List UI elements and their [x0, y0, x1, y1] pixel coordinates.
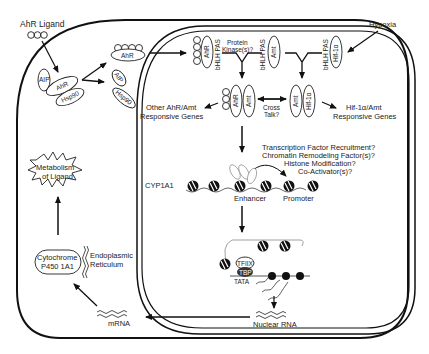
ahr-ligand-label: AhR Ligand [20, 19, 65, 29]
amt-hif-dimer: Amt Hif-1α [290, 85, 315, 117]
nuclear-ahr: AhR bHLH PAS [194, 36, 222, 70]
tfiix-label: TFIIX [237, 260, 254, 267]
other-genes-label: Other AhR/Amt [146, 103, 197, 112]
diagram-canvas: AhR Ligand AIP AhR Hsp90 AhR AIP Hsp90 M… [0, 0, 429, 354]
hif-label: Hif-1α [305, 92, 312, 110]
amt-label: Amt [292, 95, 299, 107]
bhlh-pas-label: bHLH PAS [259, 38, 266, 70]
hif1a-monomer: Hif-1α bHLH PAS [322, 36, 342, 70]
hif-responsive-label: Responsive Genes [333, 112, 397, 121]
cyp1a1-gene-label: CYP1A1 [145, 181, 174, 190]
ligand-bound-ahr: AhR [111, 45, 145, 62]
nuclear-envelope-outer [137, 26, 415, 334]
promoter-label: Promoter [283, 194, 314, 203]
amt-monomer: Amt bHLH PAS [259, 36, 280, 70]
ahr-label: AhR [121, 52, 134, 59]
er-membrane [83, 246, 89, 278]
tata-label: TATA [234, 278, 250, 285]
reticulum-label: Reticulum [90, 260, 123, 269]
cytochrome-label: Cytochrome [37, 253, 77, 262]
amt-label: Amt [245, 95, 252, 107]
of-ligand-label: of Ligand [42, 172, 73, 181]
mrna-label: mRNA [108, 319, 130, 328]
hif-genes-label: Hif-1α/Amt [346, 103, 383, 112]
metabolism-label: Metabolism [36, 163, 74, 172]
tbp-label: TBP [239, 269, 252, 276]
ahr-label: AhR [232, 94, 239, 107]
ligand-rings-icon [28, 32, 48, 39]
rna-polymerases [268, 272, 304, 280]
er-label: Endoplasmic [90, 251, 133, 260]
talk-label: Talk? [264, 111, 280, 118]
enhancer-label: Enhancer [234, 194, 267, 203]
loop-nucleosomes [220, 241, 291, 270]
protein-kinase-label: Protein [227, 39, 248, 46]
other-responsive-label: Responsive Genes [140, 112, 204, 121]
hypoxia-label: Hypoxia [369, 20, 397, 29]
mrna-strand [97, 311, 127, 318]
tfiix-complex: TFIIX TBP [236, 257, 254, 277]
cross-label: Cross [263, 104, 281, 111]
ahr-amt-dimer: AhR Amt [223, 85, 256, 117]
hif-label: Hif-1α [332, 44, 339, 62]
ahr-label: AhR [203, 45, 210, 58]
nuclear-rna-label: Nuclear RNA [253, 320, 297, 329]
question-4: Co-Activator(s)? [298, 167, 352, 176]
bhlh-pas-label: bHLH PAS [214, 38, 221, 70]
nuclear-rna-strand [256, 312, 286, 319]
p450-label: P450 1A1 [41, 262, 74, 271]
amt-label: Amt [270, 46, 277, 58]
aip-label: AIP [39, 76, 49, 83]
bhlh-pas-label: bHLH PAS [322, 38, 329, 70]
